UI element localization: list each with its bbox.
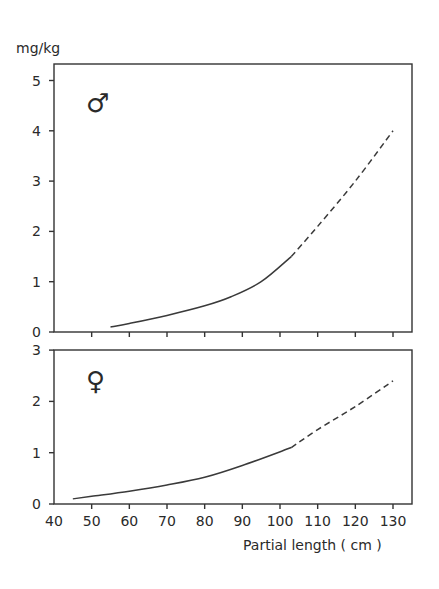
y-tick-label: 3 xyxy=(32,173,41,189)
female-curve xyxy=(73,381,393,499)
top-x-axis-ticks xyxy=(92,332,393,337)
bottom-y-axis-ticks: 0123 xyxy=(32,342,54,512)
observed-curve-segment xyxy=(73,448,291,499)
bottom-x-axis-ticks: 405060708090100110120130 xyxy=(45,504,406,529)
x-tick-label: 50 xyxy=(83,513,101,529)
x-axis-title: Partial length ( cm ) xyxy=(243,537,382,553)
bottom-panel-frame xyxy=(54,350,412,504)
top-panel-male: 012345 ♂ xyxy=(32,64,412,340)
y-tick-label: 2 xyxy=(32,393,41,409)
y-tick-label: 2 xyxy=(32,223,41,239)
y-tick-label: 1 xyxy=(32,445,41,461)
x-tick-label: 70 xyxy=(158,513,176,529)
x-tick-label: 60 xyxy=(120,513,138,529)
observed-curve-segment xyxy=(111,257,292,327)
y-tick-label: 0 xyxy=(32,324,41,340)
y-axis-unit-label: mg/kg xyxy=(16,40,60,56)
y-tick-label: 3 xyxy=(32,342,41,358)
y-tick-label: 5 xyxy=(32,73,41,89)
male-symbol-icon: ♂ xyxy=(86,88,109,118)
male-curve xyxy=(111,131,394,327)
extrapolated-curve-segment xyxy=(291,381,393,448)
extrapolated-curve-segment xyxy=(291,131,393,257)
y-tick-label: 1 xyxy=(32,274,41,290)
y-tick-label: 4 xyxy=(32,123,41,139)
top-y-axis-ticks: 012345 xyxy=(32,73,54,341)
x-tick-label: 40 xyxy=(45,513,63,529)
x-tick-label: 130 xyxy=(380,513,407,529)
x-tick-label: 120 xyxy=(342,513,369,529)
figure: mg/kg 012345 ♂ 0123 40506070809010011012… xyxy=(0,0,439,589)
x-tick-label: 110 xyxy=(304,513,331,529)
x-tick-label: 80 xyxy=(196,513,214,529)
y-tick-label: 0 xyxy=(32,496,41,512)
bottom-panel-female: 0123 405060708090100110120130 ♀ xyxy=(32,342,412,529)
x-tick-label: 90 xyxy=(233,513,251,529)
female-symbol-icon: ♀ xyxy=(86,366,105,396)
x-tick-label: 100 xyxy=(267,513,294,529)
